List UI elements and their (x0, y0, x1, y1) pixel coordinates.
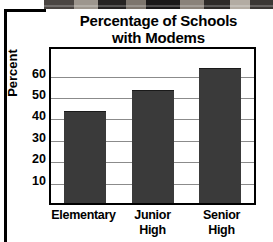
bar[interactable] (132, 90, 174, 203)
page-title: Percentage of Schools with Modems (46, 12, 271, 46)
y-axis-tick-label: 50 (22, 88, 46, 102)
plot-area (49, 47, 256, 205)
bar[interactable] (199, 68, 241, 203)
photo-highlight (44, 5, 273, 7)
y-axis-tick-label: 20 (22, 152, 46, 166)
chart-figure: Percentage of Schools with Modems Percen… (0, 0, 273, 242)
x-axis-tick-label: Elementary (49, 208, 118, 242)
x-axis-tick-label-line: High (118, 223, 187, 238)
bar-slot (51, 49, 119, 203)
y-axis-tick-label: 60 (22, 67, 46, 81)
cropped-photograph-strip (44, 0, 273, 9)
chart-title-line-2: with Modems (46, 29, 271, 46)
x-axis-tick-label-line: Senior (187, 208, 256, 223)
y-axis-tick-labels: 605040302010 (22, 47, 46, 205)
chart-title-line-1: Percentage of Schools (46, 12, 271, 29)
y-axis-tick-label: 30 (22, 131, 46, 145)
x-axis-tick-label-line: Junior (118, 208, 187, 223)
bar-slot (119, 49, 187, 203)
x-axis-tick-label-line: Elementary (49, 208, 118, 223)
y-axis-title: Percent (5, 33, 23, 113)
bar-slot (186, 49, 254, 203)
bar[interactable] (64, 111, 106, 203)
plot-inner (51, 49, 254, 203)
page-border-rule-top (4, 9, 46, 12)
x-axis-tick-label: JuniorHigh (118, 208, 187, 242)
x-axis-tick-labels: ElementaryJuniorHighSeniorHigh (49, 208, 256, 242)
y-axis-tick-label: 10 (22, 174, 46, 188)
x-axis-tick-label: SeniorHigh (187, 208, 256, 242)
y-axis-tick-label: 40 (22, 109, 46, 123)
x-axis-tick-label-line: High (187, 223, 256, 238)
bar-series (51, 49, 254, 203)
